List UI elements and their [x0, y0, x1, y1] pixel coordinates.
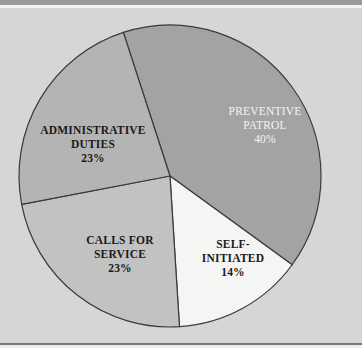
label-administrative-duties: ADMINISTRATIVE DUTIES 23%	[38, 123, 148, 165]
label-administrative-duties-pct: 23%	[38, 151, 148, 165]
pie-chart	[0, 0, 362, 348]
label-administrative-duties-line1: ADMINISTRATIVE	[38, 123, 148, 137]
label-preventive-patrol-pct: 40%	[205, 132, 325, 146]
label-self-initiated-line2: INITIATED	[196, 251, 270, 265]
label-preventive-patrol-line1: PREVENTIVE	[205, 104, 325, 118]
label-calls-for-service-pct: 23%	[68, 261, 172, 275]
label-self-initiated-line1: SELF-	[196, 237, 270, 251]
label-preventive-patrol: PREVENTIVE PATROL 40%	[205, 104, 325, 146]
label-calls-for-service-line2: SERVICE	[68, 247, 172, 261]
label-preventive-patrol-line2: PATROL	[205, 118, 325, 132]
label-calls-for-service: CALLS FOR SERVICE 23%	[68, 233, 172, 275]
label-administrative-duties-line2: DUTIES	[38, 137, 148, 151]
label-self-initiated-pct: 14%	[196, 265, 270, 279]
label-self-initiated: SELF- INITIATED 14%	[196, 237, 270, 279]
label-calls-for-service-line1: CALLS FOR	[68, 233, 172, 247]
